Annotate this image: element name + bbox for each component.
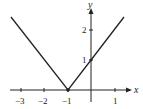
- x-tick-label: −2: [38, 96, 48, 106]
- vertex-point: [66, 88, 70, 92]
- y-tick-label: 2: [82, 25, 87, 35]
- x-axis-arrow-icon: [126, 88, 132, 93]
- function-line: [11, 17, 124, 90]
- x-tick-label: −3: [15, 96, 25, 106]
- x-axis-label: x: [133, 84, 139, 95]
- y-intercept-point: [90, 59, 92, 61]
- x-tick-label: 1: [113, 96, 118, 106]
- y-axis-label: y: [87, 0, 93, 10]
- y-tick-label: 1: [82, 55, 87, 65]
- x-tick-label: −1: [62, 96, 72, 106]
- chart: x y −3 −2 −1 1 1 2: [0, 0, 143, 109]
